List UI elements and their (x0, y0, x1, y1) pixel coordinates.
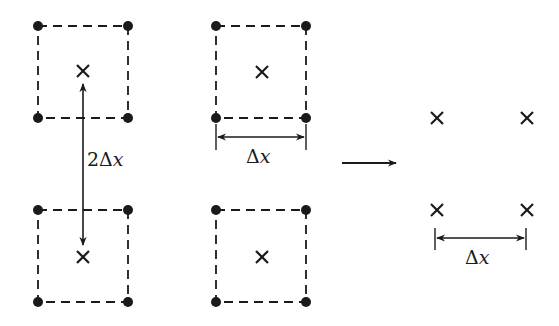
node-dot-icon (301, 21, 311, 31)
node-dot-icon (301, 113, 311, 123)
node-dot-icon (211, 21, 221, 31)
node-dot-icon (211, 205, 221, 215)
node-dot-icon (211, 113, 221, 123)
node-dot-icon (123, 297, 133, 307)
node-dot-icon (33, 113, 43, 123)
cross-mark-icon (431, 204, 443, 216)
vertical-dimension-label: 2Δx (87, 148, 124, 170)
cross-mark-icon (256, 66, 268, 78)
node-dot-icon (123, 205, 133, 215)
cross-mark-icon (521, 204, 533, 216)
node-dot-icon (33, 297, 43, 307)
cross-mark-icon (256, 251, 268, 263)
result-spacing-label: Δx (465, 246, 490, 268)
node-dot-icon (123, 21, 133, 31)
cross-mark-icon (77, 65, 89, 77)
cross-mark-icon (521, 112, 533, 124)
node-dot-icon (123, 113, 133, 123)
cross-mark-icon (77, 251, 89, 263)
node-dot-icon (33, 205, 43, 215)
node-dot-icon (211, 297, 221, 307)
node-dot-icon (301, 297, 311, 307)
node-dot-icon (301, 205, 311, 215)
grid-coarsening-diagram: 2Δx Δx Δx (0, 0, 559, 326)
node-dot-icon (33, 21, 43, 31)
cross-mark-icon (431, 112, 443, 124)
cell-width-label: Δx (246, 145, 271, 167)
